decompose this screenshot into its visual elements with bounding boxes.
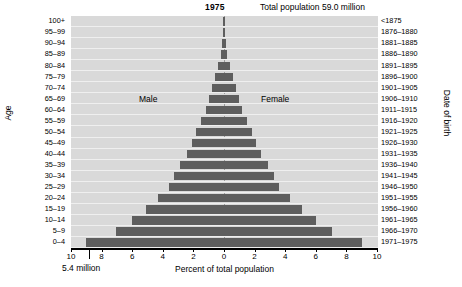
age-tick-label: 0–4 bbox=[53, 238, 65, 246]
bar-female bbox=[224, 117, 247, 125]
date-tick-label: 1931–1935 bbox=[381, 150, 418, 158]
age-tick-label: 85–89 bbox=[45, 50, 65, 58]
chart-header: 1975 Total population 59.0 million bbox=[0, 2, 462, 16]
age-tick-label: 95–99 bbox=[45, 28, 65, 36]
date-tick-label: 1961–1965 bbox=[381, 216, 418, 224]
date-tick-label: 1956–1960 bbox=[381, 205, 418, 213]
age-tick-label: 40–44 bbox=[45, 150, 65, 158]
bar-female bbox=[224, 84, 236, 92]
date-tick-label: 1916–1920 bbox=[381, 117, 418, 125]
bar-female bbox=[224, 238, 362, 246]
date-of-birth-axis-title: Date of birth bbox=[442, 83, 452, 143]
age-tick-label: 30–34 bbox=[45, 172, 65, 180]
date-tick-label: 1901–1905 bbox=[381, 84, 418, 92]
age-tick-label: 15–19 bbox=[45, 205, 65, 213]
bar-female bbox=[224, 106, 242, 114]
age-tick-label: 65–69 bbox=[45, 95, 65, 103]
gridline bbox=[71, 26, 378, 27]
date-tick-label: 1936–1940 bbox=[381, 161, 418, 169]
date-tick-label: 1971–1975 bbox=[381, 238, 418, 246]
x-axis-title: Percent of total population bbox=[71, 264, 378, 274]
gridline bbox=[71, 48, 378, 49]
bar-male bbox=[192, 139, 224, 147]
bar-female bbox=[224, 216, 316, 224]
gridline bbox=[71, 92, 378, 93]
gridline bbox=[71, 181, 378, 182]
bar-female bbox=[224, 50, 227, 58]
gridline bbox=[71, 37, 378, 38]
x-tick-label: 8 bbox=[92, 252, 112, 261]
gridline bbox=[71, 59, 378, 60]
bar-male bbox=[132, 216, 224, 224]
date-tick-label: 1921–1925 bbox=[381, 128, 418, 136]
gridline bbox=[71, 214, 378, 215]
age-tick-label: 10–14 bbox=[45, 216, 65, 224]
bar-female bbox=[224, 62, 230, 70]
bar-male bbox=[158, 194, 224, 202]
scale-marker bbox=[89, 250, 90, 259]
bar-female bbox=[224, 139, 256, 147]
gridline bbox=[71, 203, 378, 204]
age-tick-label: 20–24 bbox=[45, 194, 65, 202]
age-tick-label: 35–39 bbox=[45, 161, 65, 169]
date-tick-label: 1946–1950 bbox=[381, 183, 418, 191]
date-tick-label: 1941–1945 bbox=[381, 172, 418, 180]
gridline bbox=[71, 192, 378, 193]
bar-male bbox=[209, 95, 224, 103]
x-tick-label: 6 bbox=[122, 252, 142, 261]
population-pyramid-figure: 1975 Total population 59.0 million 100+9… bbox=[0, 0, 462, 287]
gridline bbox=[71, 125, 378, 126]
gridline bbox=[71, 225, 378, 226]
plot-area: Male Female bbox=[71, 16, 378, 248]
date-tick-label: 1906–1910 bbox=[381, 95, 418, 103]
date-of-birth-axis: <18751876–18801881–18851886–18901891–189… bbox=[381, 16, 441, 248]
bar-male bbox=[212, 84, 224, 92]
gridline bbox=[71, 103, 378, 104]
bar-male bbox=[169, 183, 224, 191]
date-tick-label: 1886–1890 bbox=[381, 50, 418, 58]
bar-male bbox=[180, 161, 224, 169]
gridline bbox=[71, 70, 378, 71]
x-tick-label: 4 bbox=[275, 252, 295, 261]
gridline bbox=[71, 236, 378, 237]
bar-female bbox=[224, 39, 226, 47]
bar-female bbox=[224, 28, 225, 36]
gridline bbox=[71, 148, 378, 149]
bar-female bbox=[224, 183, 279, 191]
bar-male bbox=[196, 128, 224, 136]
date-tick-label: 1951–1955 bbox=[381, 194, 418, 202]
date-tick-label: 1966–1970 bbox=[381, 227, 418, 235]
age-tick-label: 75–79 bbox=[45, 73, 65, 81]
gridline bbox=[71, 137, 378, 138]
bar-female bbox=[224, 205, 302, 213]
gridline bbox=[71, 81, 378, 82]
x-tick-label: 0 bbox=[214, 252, 234, 261]
age-tick-label: 100+ bbox=[49, 17, 65, 25]
age-axis-title: Age bbox=[3, 93, 13, 133]
bar-male bbox=[174, 172, 224, 180]
age-tick-label: 70–74 bbox=[45, 84, 65, 92]
bar-female bbox=[224, 95, 239, 103]
x-tick-label: 10 bbox=[367, 252, 387, 261]
age-tick-label: 25–29 bbox=[45, 183, 65, 191]
date-tick-label: 1926–1930 bbox=[381, 139, 418, 147]
total-population-label: Total population 59.0 million bbox=[260, 2, 365, 12]
bar-female bbox=[224, 17, 225, 25]
x-tick-label: 2 bbox=[245, 252, 265, 261]
date-tick-label: 1881–1885 bbox=[381, 39, 418, 47]
age-tick-label: 45–49 bbox=[45, 139, 65, 147]
age-tick-label: 90–94 bbox=[45, 39, 65, 47]
bar-female bbox=[224, 161, 268, 169]
date-tick-label: 1891–1895 bbox=[381, 62, 418, 70]
age-tick-label: 55–59 bbox=[45, 117, 65, 125]
bar-male bbox=[86, 238, 224, 246]
bar-female bbox=[224, 227, 332, 235]
bar-male bbox=[146, 205, 224, 213]
x-tick-label: 4 bbox=[153, 252, 173, 261]
bar-male bbox=[215, 73, 224, 81]
bar-male bbox=[187, 150, 224, 158]
x-tick-label: 6 bbox=[306, 252, 326, 261]
gridline bbox=[71, 159, 378, 160]
age-tick-label: 50–54 bbox=[45, 128, 65, 136]
date-tick-label: 1911–1915 bbox=[381, 106, 417, 114]
